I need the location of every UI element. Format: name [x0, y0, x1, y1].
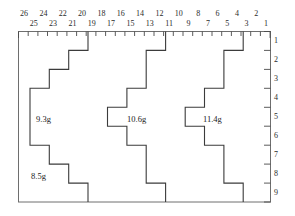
region-label-11-4g: 11.4g	[203, 115, 222, 124]
top-axis-label-16: 16	[114, 10, 128, 18]
top-axis-label-5: 5	[220, 20, 234, 28]
top-axis-label-12: 12	[153, 10, 167, 18]
right-axis-label-6: 6	[274, 132, 286, 140]
top-axis-label-1: 1	[259, 20, 273, 28]
right-axis-label-7: 7	[274, 151, 286, 159]
right-axis-label-1: 1	[274, 37, 286, 45]
top-axis-label-19: 19	[85, 20, 99, 28]
right-axis-label-8: 8	[274, 170, 286, 178]
right-axis-label-5: 5	[274, 113, 286, 121]
figure-canvas	[0, 0, 295, 216]
top-axis-label-25: 25	[27, 20, 41, 28]
top-axis-label-7: 7	[201, 20, 215, 28]
top-axis-label-17: 17	[104, 20, 118, 28]
top-axis-label-8: 8	[191, 10, 205, 18]
top-axis-label-14: 14	[133, 10, 147, 18]
top-axis-label-3: 3	[240, 20, 254, 28]
top-axis-label-15: 15	[124, 20, 138, 28]
top-axis-label-22: 22	[56, 10, 70, 18]
region-label-9-3g: 9.3g	[36, 115, 51, 124]
top-axis-label-18: 18	[94, 10, 108, 18]
top-axis-label-24: 24	[36, 10, 50, 18]
top-axis-label-23: 23	[46, 20, 60, 28]
right-axis-label-2: 2	[274, 56, 286, 64]
top-axis-label-11: 11	[162, 20, 176, 28]
region-label-8-5g: 8.5g	[31, 172, 46, 181]
region-label-10-6g: 10.6g	[127, 115, 146, 124]
step-profile-figure: 26 24 22 20 18 16 14 12 10 8 6 4 2 25 23…	[0, 0, 295, 216]
right-axis-label-9: 9	[274, 189, 286, 197]
top-axis-label-26: 26	[17, 10, 31, 18]
top-axis-label-4: 4	[230, 10, 244, 18]
right-axis-label-3: 3	[274, 75, 286, 83]
top-axis-label-6: 6	[211, 10, 225, 18]
right-axis-label-4: 4	[274, 94, 286, 102]
top-axis-label-9: 9	[182, 20, 196, 28]
top-axis-label-13: 13	[143, 20, 157, 28]
top-axis-label-10: 10	[172, 10, 186, 18]
top-axis-label-20: 20	[75, 10, 89, 18]
top-axis-label-2: 2	[249, 10, 263, 18]
top-axis-label-21: 21	[65, 20, 79, 28]
